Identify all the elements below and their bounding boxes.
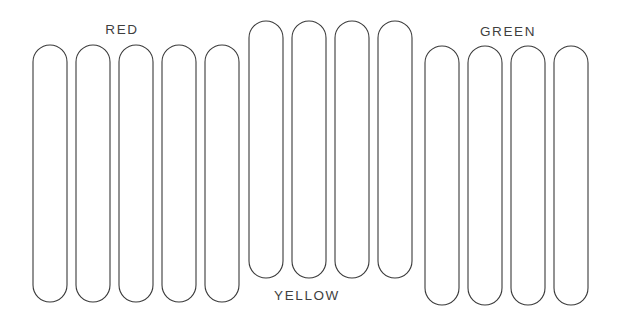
- bar-yellow-2[interactable]: [292, 21, 326, 278]
- bar-red-5[interactable]: [205, 45, 239, 302]
- bar-green-4[interactable]: [554, 46, 588, 305]
- bar-group-yellow: YELLOW: [249, 21, 412, 303]
- bar-red-2[interactable]: [76, 45, 110, 302]
- group-label-red: RED: [105, 22, 138, 37]
- group-label-yellow: YELLOW: [274, 288, 340, 303]
- bar-red-4[interactable]: [162, 45, 196, 302]
- bar-red-3[interactable]: [119, 45, 153, 302]
- bars-diagram: REDYELLOWGREEN: [0, 0, 621, 327]
- bar-green-1[interactable]: [425, 46, 459, 305]
- diagram-canvas: REDYELLOWGREEN: [0, 0, 621, 327]
- bar-yellow-4[interactable]: [378, 21, 412, 278]
- bar-group-red: RED: [33, 22, 239, 302]
- group-label-green: GREEN: [480, 24, 536, 39]
- bar-yellow-1[interactable]: [249, 21, 283, 278]
- bar-red-1[interactable]: [33, 45, 67, 302]
- bar-green-2[interactable]: [468, 46, 502, 305]
- bar-green-3[interactable]: [511, 46, 545, 305]
- bar-yellow-3[interactable]: [335, 21, 369, 278]
- bar-group-green: GREEN: [425, 24, 588, 305]
